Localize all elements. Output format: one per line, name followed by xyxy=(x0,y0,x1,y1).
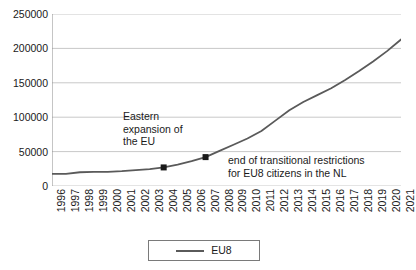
x-axis-tick-label: 2017 xyxy=(349,189,360,212)
x-axis-tick-label: 2011 xyxy=(265,189,276,212)
y-axis-tick-label: 150000 xyxy=(13,78,48,89)
y-axis-tick-label: 100000 xyxy=(13,112,48,123)
y-axis-tick-label: 250000 xyxy=(13,9,48,20)
x-axis-tick-label: 2020 xyxy=(391,189,402,212)
legend-label-eu8: EU8 xyxy=(211,245,231,256)
x-axis-tick-label: 2008 xyxy=(224,189,235,212)
x-axis: 1996199719981999200020012002200320042005… xyxy=(52,189,401,239)
x-axis-tick-label: 2000 xyxy=(112,189,123,212)
x-axis-tick-label: 2015 xyxy=(321,189,332,212)
x-axis-tick-label: 1999 xyxy=(98,189,109,212)
x-axis-tick-label: 2009 xyxy=(237,189,248,212)
x-axis-tick-label: 2006 xyxy=(196,189,207,212)
legend: EU8 xyxy=(148,240,260,261)
eastern-expansion-marker xyxy=(161,164,167,170)
y-axis: 250000200000150000100000500000 xyxy=(0,0,48,200)
x-axis-tick-label: 2007 xyxy=(210,189,221,212)
x-axis-tick-label: 2012 xyxy=(279,189,290,212)
x-axis-tick-label: 1997 xyxy=(70,189,81,212)
y-axis-tick-label: 0 xyxy=(42,181,48,192)
annotation-transitional-restrictions: end of transitional restrictions for EU8… xyxy=(228,154,365,179)
y-axis-tick-label: 50000 xyxy=(19,147,48,158)
x-axis-tick-label: 2004 xyxy=(168,189,179,212)
x-axis-tick-label: 2016 xyxy=(335,189,346,212)
x-axis-tick-label: 2003 xyxy=(154,189,165,212)
y-axis-tick-label: 200000 xyxy=(13,43,48,54)
x-axis-tick-label: 2005 xyxy=(182,189,193,212)
x-axis-tick-label: 2021 xyxy=(405,189,416,212)
x-axis-tick-label: 2018 xyxy=(363,189,374,212)
x-axis-tick-label: 2013 xyxy=(293,189,304,212)
x-axis-tick-label: 2002 xyxy=(140,189,151,212)
x-axis-tick-label: 1996 xyxy=(56,189,67,212)
x-axis-tick-label: 2014 xyxy=(307,189,318,212)
x-axis-tick-label: 2001 xyxy=(126,189,137,212)
legend-swatch-eu8 xyxy=(176,250,204,252)
transitional-restrictions-marker xyxy=(203,154,209,160)
x-axis-tick-label: 2019 xyxy=(377,189,388,212)
x-axis-tick-label: 2010 xyxy=(251,189,262,212)
annotation-eastern-expansion: Eastern expansion of the EU xyxy=(123,110,183,148)
x-axis-tick-label: 1998 xyxy=(84,189,95,212)
